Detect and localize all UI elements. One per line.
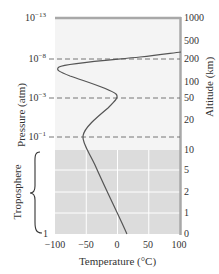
y-right-tick: 5 xyxy=(184,165,189,175)
y-right-tick: 200 xyxy=(184,54,199,64)
troposphere-label: Troposphere xyxy=(12,162,22,222)
y-right-tick: 1000 xyxy=(184,13,204,23)
y-right-axis-title: Altitude (km) xyxy=(204,52,214,122)
x-tick: −50 xyxy=(71,240,101,250)
troposphere-brace xyxy=(30,152,42,233)
x-tick: −100 xyxy=(40,240,70,250)
y-left-axis-title: Pressure (atm) xyxy=(16,80,26,150)
upper-atmosphere-region xyxy=(55,18,180,150)
x-axis-title: Temperature (°C) xyxy=(55,256,180,266)
y-left-tick-1e-8: 10−8 xyxy=(0,54,46,64)
y-right-tick: 1 xyxy=(184,208,189,218)
y-right-tick: 2 xyxy=(184,187,189,197)
y-right-tick: 0 xyxy=(184,229,189,239)
y-right-tick: 100 xyxy=(184,77,199,87)
y-right-tick: 20 xyxy=(184,115,194,125)
y-left-tick-1: 1 xyxy=(0,229,48,239)
x-tick: 50 xyxy=(133,240,163,250)
x-tick: 100 xyxy=(164,240,194,250)
y-right-tick: 500 xyxy=(184,36,199,46)
y-left-tick-1e-13: 10−13 xyxy=(0,13,46,23)
y-right-tick: 50 xyxy=(184,93,194,103)
y-right-tick: 10 xyxy=(184,145,194,155)
x-tick: 0 xyxy=(102,240,132,250)
